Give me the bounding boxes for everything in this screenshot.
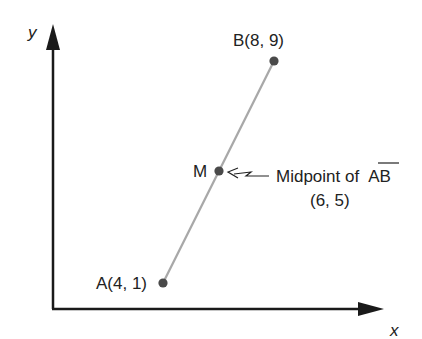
x-axis: x <box>52 302 399 339</box>
y-axis: y <box>27 23 60 309</box>
x-axis-label: x <box>389 321 399 339</box>
point-a-label: A(4, 1) <box>96 274 147 293</box>
point-m-label: M <box>193 162 207 181</box>
point-m <box>214 166 223 175</box>
point-a <box>158 278 167 287</box>
point-b <box>269 56 278 65</box>
y-axis-arrow-icon <box>46 24 60 50</box>
segment-ab-notation: AB <box>368 167 391 186</box>
x-axis-arrow-icon <box>358 302 384 316</box>
point-b-label: B(8, 9) <box>233 31 284 50</box>
y-axis-label: y <box>27 23 38 42</box>
midpoint-coordinates: (6, 5) <box>310 191 350 210</box>
midpoint-diagram: y x B(8, 9) M A(4, 1) Midpoint ofAB (6, … <box>0 0 422 339</box>
annotation-text: Midpoint ofAB <box>276 167 391 186</box>
annotation-arrow-icon <box>228 168 269 178</box>
